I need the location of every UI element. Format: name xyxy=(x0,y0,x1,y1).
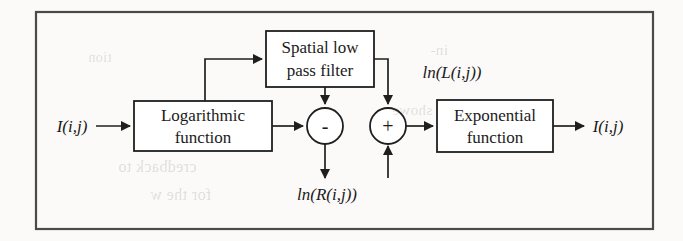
block-logarithmic-line1: Logarithmic xyxy=(161,106,245,125)
block-exponential-line2: function xyxy=(467,128,524,147)
block-exponential[interactable]: Exponential function xyxy=(437,100,553,152)
block-logarithmic[interactable]: Logarithmic function xyxy=(134,101,272,151)
block-spatial-filter-line1: Spatial low xyxy=(282,38,360,57)
block-spatial-filter[interactable]: Spatial low pass filter xyxy=(266,31,374,87)
signal-input-label: I(i,j) xyxy=(56,117,88,136)
operator-subtract-symbol: - xyxy=(322,115,329,137)
block-logarithmic-line2: function xyxy=(175,128,232,147)
block-exponential-line1: Exponential xyxy=(454,106,536,125)
wire-filter-to-add xyxy=(374,59,388,104)
operator-subtract[interactable]: - xyxy=(307,108,343,144)
block-diagram: Spatial low pass filter Logarithmic func… xyxy=(0,0,683,241)
signal-reflectance-label: ln(R(i,j)) xyxy=(297,185,357,204)
operator-add[interactable]: + xyxy=(370,108,406,144)
signal-illumination-label: ln(L(i,j)) xyxy=(422,63,481,82)
figure-scan: Spatial low pass filter Logarithmic func… xyxy=(0,0,683,241)
operator-add-symbol: + xyxy=(382,115,393,137)
signal-output-label: I(i,j) xyxy=(592,117,624,136)
block-spatial-filter-line2: pass filter xyxy=(287,61,354,80)
